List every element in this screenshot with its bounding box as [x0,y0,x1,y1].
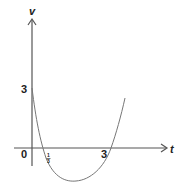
v-intercept-label: 3 [21,83,27,95]
root-three-label: 3 [101,148,107,160]
origin-label: 0 [21,148,27,160]
velocity-time-graph: v 3 0 1 3 3 t [0,0,181,190]
velocity-curve [32,88,125,181]
v-axis-label: v [29,5,36,17]
t-axis-label: t [170,143,175,155]
root-one-third-denominator: 3 [47,158,50,164]
